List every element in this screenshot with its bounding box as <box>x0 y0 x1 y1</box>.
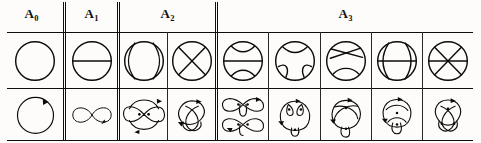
curve-cell-A1-0 <box>66 89 117 140</box>
rule-bottom <box>7 140 473 141</box>
circle-one-chord-icon <box>69 38 115 84</box>
group-header-A3-sub: 3 <box>348 13 352 23</box>
group-header-A1: A1 <box>66 6 117 22</box>
circle-three-chords-c-icon <box>323 38 369 84</box>
curve-cell-A3-0 <box>218 89 268 140</box>
group-header-A0: A0 <box>0 6 63 22</box>
curve-cell-A3-1 <box>269 89 320 140</box>
table-header-row: A0 A1 A2 A3 <box>0 0 481 32</box>
figure-table: A0 A1 A2 A3 <box>0 0 481 143</box>
trefoil-style-curve-icon <box>170 93 214 137</box>
group-header-A1-base: A <box>84 6 94 21</box>
chord-cell-A3-1 <box>269 33 320 88</box>
curve-3c-icon <box>324 92 368 138</box>
circle-three-chords-b-icon <box>272 38 318 84</box>
curve-cell-A3-2 <box>321 89 371 140</box>
curve-cell-A3-3 <box>372 89 422 140</box>
curve-3e-icon <box>426 93 470 137</box>
chord-cell-A2-1 <box>168 33 215 88</box>
curve-cell-A2-1 <box>168 89 215 140</box>
group-header-A0-sub: 0 <box>34 13 38 23</box>
chord-cell-A0-0 <box>7 33 63 88</box>
circle-two-crossing-chords-icon <box>169 38 215 84</box>
chord-cell-A3-3 <box>372 33 422 88</box>
curve-cell-A3-4 <box>423 89 473 140</box>
circle-three-chords-d-icon <box>374 38 420 84</box>
plain-circle-icon <box>12 38 58 84</box>
two-crossing-curve-icon <box>121 93 167 136</box>
group-header-A3-base: A <box>338 6 348 21</box>
figure-eight-curve-icon <box>69 95 115 135</box>
group-header-A2-base: A <box>160 6 170 21</box>
group-header-A1-sub: 1 <box>94 13 98 23</box>
chord-cell-A3-4 <box>423 33 473 88</box>
group-header-A2-sub: 2 <box>170 13 174 23</box>
circle-three-chords-a-icon <box>220 38 266 84</box>
simple-closed-curve-icon <box>13 92 58 137</box>
chord-cell-A1-0 <box>66 33 117 88</box>
circle-two-parallel-chords-icon <box>121 38 167 84</box>
chord-cell-A3-2 <box>321 33 371 88</box>
curve-3b-icon <box>273 92 317 138</box>
group-header-A0-base: A <box>24 6 34 21</box>
circle-three-chords-e-icon <box>425 38 471 84</box>
chord-cell-A2-0 <box>120 33 167 88</box>
chord-cell-A3-0 <box>218 33 268 88</box>
group-header-A3: A3 <box>218 6 473 22</box>
curve-3a-icon <box>220 92 266 138</box>
curve-cell-A0-0 <box>7 89 63 140</box>
curve-cell-A2-0 <box>120 89 167 140</box>
group-header-A2: A2 <box>120 6 215 22</box>
curve-3d-icon <box>375 92 419 138</box>
